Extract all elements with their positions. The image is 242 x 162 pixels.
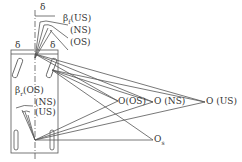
o-us-label: O (US) [206,97,237,106]
o-ns-label: O (NS) [154,97,185,106]
front-left-wheel [12,58,24,79]
o-s-sub: s [161,139,164,146]
ns-top-label: (NS) [70,26,91,35]
us-top-label: (US) [70,13,91,23]
o-s-label: Os [154,135,164,146]
delta-left-label: δ [15,41,20,50]
steering-diagram [0,0,242,162]
beta-f-label: βf(US) [63,14,91,25]
vector-ns [35,25,44,58]
rear-left-wheel [14,130,18,150]
o-os-label: O(OS) [118,97,146,106]
beta-r-label: βr(OS) [15,86,44,97]
os-top-label: (OS) [70,38,91,47]
ns-rear-label: (NS) [35,98,56,107]
os-rear-label: (OS) [23,85,44,95]
delta-top-label: δ [40,3,45,12]
delta-right-label: δ [50,41,55,50]
us-rear-label: (US) [35,108,56,117]
